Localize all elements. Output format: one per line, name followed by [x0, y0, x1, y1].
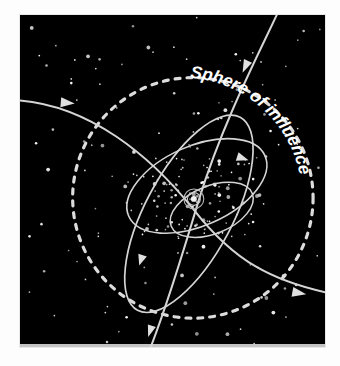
star	[177, 252, 179, 254]
star	[136, 174, 138, 176]
star	[68, 250, 70, 252]
star	[166, 161, 168, 163]
space-background	[20, 15, 325, 347]
star	[38, 55, 40, 57]
star	[95, 208, 97, 210]
star	[259, 245, 262, 248]
star	[178, 176, 180, 178]
star	[170, 196, 173, 199]
star	[43, 270, 46, 273]
star	[271, 311, 275, 315]
star	[176, 158, 178, 160]
star	[252, 178, 255, 181]
star	[30, 26, 34, 30]
star	[40, 223, 43, 226]
star	[148, 224, 150, 226]
star	[104, 312, 106, 314]
star	[91, 144, 93, 146]
star	[209, 158, 211, 160]
star	[164, 202, 166, 204]
star	[228, 184, 230, 186]
star	[46, 168, 50, 172]
star	[162, 181, 166, 185]
figure-root: Sphere of influence	[0, 0, 340, 366]
star	[118, 331, 120, 333]
star	[146, 46, 150, 50]
star	[238, 177, 242, 181]
star	[52, 128, 55, 131]
star	[70, 82, 73, 85]
star	[231, 172, 233, 174]
star	[132, 25, 135, 28]
star	[171, 323, 174, 326]
star	[180, 274, 184, 278]
star	[223, 108, 227, 112]
star	[264, 296, 268, 300]
star	[86, 54, 90, 58]
star	[29, 291, 31, 293]
star	[184, 228, 186, 230]
star	[226, 332, 230, 336]
star	[218, 163, 221, 166]
star	[285, 316, 287, 318]
star	[202, 245, 206, 249]
star	[170, 189, 173, 192]
star	[175, 184, 178, 187]
star	[244, 234, 246, 236]
star	[125, 316, 128, 319]
central-body-core	[191, 196, 197, 202]
star	[195, 224, 198, 227]
star	[278, 144, 280, 146]
star	[218, 102, 220, 104]
star	[252, 52, 254, 54]
star	[196, 147, 199, 150]
star	[260, 296, 263, 299]
star	[244, 164, 246, 166]
star	[127, 181, 129, 183]
star	[182, 167, 184, 169]
star	[218, 210, 221, 213]
star	[206, 167, 208, 169]
star	[214, 277, 216, 279]
star	[213, 293, 215, 295]
star	[155, 229, 158, 232]
star	[195, 332, 199, 336]
star	[297, 39, 299, 41]
panel-bottom-edge	[20, 344, 325, 347]
star	[217, 193, 221, 197]
star	[142, 234, 144, 236]
star	[143, 267, 145, 269]
star	[285, 65, 287, 67]
star	[209, 221, 211, 223]
star	[170, 202, 173, 205]
star	[152, 51, 154, 53]
star	[99, 83, 101, 85]
star	[302, 30, 305, 33]
star	[121, 64, 123, 66]
star	[226, 195, 230, 199]
star	[231, 236, 233, 238]
sphere-of-influence-figure: Sphere of influence	[19, 14, 326, 348]
star	[193, 131, 195, 133]
star	[98, 232, 100, 234]
star	[252, 221, 255, 224]
star	[74, 59, 76, 61]
star	[173, 92, 176, 95]
star	[218, 186, 220, 188]
star	[101, 144, 105, 148]
star	[186, 225, 188, 227]
star	[154, 190, 156, 192]
star	[186, 252, 189, 255]
star	[319, 29, 321, 31]
star	[35, 142, 38, 145]
star	[180, 169, 182, 171]
star	[237, 163, 240, 166]
star	[177, 236, 179, 238]
star	[111, 175, 113, 177]
star	[234, 53, 237, 56]
star	[210, 170, 212, 172]
star	[256, 157, 258, 159]
star	[156, 215, 158, 217]
star	[239, 60, 241, 62]
star	[166, 184, 168, 186]
